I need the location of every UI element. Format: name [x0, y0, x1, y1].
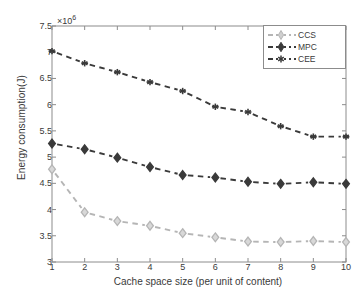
- chart-legend: CCS MPC CEE: [263, 25, 346, 69]
- legend-marker-mpc-icon: [267, 41, 297, 53]
- legend-item-ccs: CCS: [267, 29, 343, 41]
- legend-item-cee: CEE: [267, 53, 343, 65]
- legend-marker-cee-icon: [267, 53, 297, 65]
- legend-label-cee: CEE: [297, 54, 315, 64]
- legend-item-mpc: MPC: [267, 41, 343, 53]
- figure-canvas: ×106 Energy consumption(J) Cache space s…: [0, 0, 362, 308]
- legend-label-mpc: MPC: [297, 42, 317, 52]
- legend-marker-ccs-icon: [267, 29, 297, 41]
- series-mpc: [49, 139, 350, 188]
- legend-label-ccs: CCS: [297, 30, 316, 40]
